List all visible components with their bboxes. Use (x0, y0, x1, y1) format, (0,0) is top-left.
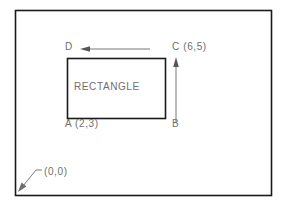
origin-label: (0,0) (44, 167, 68, 177)
vertex-label-b: B (172, 119, 179, 129)
vertex-label-c: C (6,5) (172, 42, 207, 52)
vertical-height-arrow (173, 57, 179, 122)
origin-leader-line (18, 170, 42, 192)
geometry-figure: D C (6,5) RECTANGLE A (2,3) B (0,0) (0, 0, 286, 205)
vertex-label-a: A (2,3) (65, 119, 99, 129)
vertex-label-d: D (65, 42, 73, 52)
rectangle-label: RECTANGLE (74, 82, 140, 92)
figure-canvas (0, 0, 286, 205)
horizontal-width-arrow (80, 46, 150, 52)
